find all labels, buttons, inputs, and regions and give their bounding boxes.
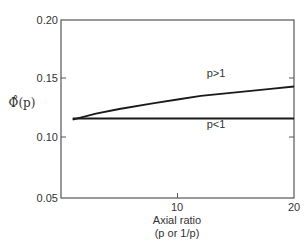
x-axis-subtitle: (p or 1/p) — [155, 227, 200, 239]
chart: 0.20 0.15 0.10 0.05 10 20 Axial ratio (p… — [0, 0, 308, 243]
y-axis-title: Φ̊(p) — [9, 95, 36, 110]
x-axis-title: Axial ratio — [153, 214, 201, 226]
plot-frame — [61, 20, 294, 198]
xtick-label-20: 20 — [288, 201, 300, 213]
ytick-label-0.10: 0.10 — [37, 131, 58, 143]
series-label-p-greater-1: p>1 — [207, 67, 226, 79]
series-label-p-less-1: p<1 — [207, 118, 226, 130]
xtick-label-10: 10 — [171, 201, 183, 213]
ytick-label-0.05: 0.05 — [37, 192, 58, 204]
ytick-label-0.20: 0.20 — [37, 14, 58, 26]
ytick-label-0.15: 0.15 — [37, 72, 58, 84]
y-ticks — [61, 78, 294, 137]
series-line-p-greater-1 — [73, 87, 294, 120]
